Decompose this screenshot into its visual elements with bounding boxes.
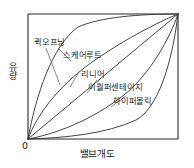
curve-label-hyperbolic: 하이퍼볼릭: [113, 97, 152, 105]
leader-line-quick-opening: [46, 48, 60, 85]
curve-label-linear: 리니어: [81, 70, 104, 78]
origin-tick-label: 0: [22, 140, 28, 151]
curve-label-quick-opening: 퀵오프닝: [34, 38, 65, 46]
curve-label-square-root: 스케어루트: [63, 51, 102, 59]
curve-label-equal-percentage: 이퀄퍼센테이지: [88, 83, 143, 91]
valve-characteristic-chart: 퀵오프닝 스케어루트 리니어 이퀄퍼센테이지 하이퍼볼릭 유량 밸브개도 0: [0, 0, 194, 168]
y-axis-title: 유량: [2, 62, 16, 79]
leader-line-linear: [70, 72, 79, 87]
x-axis-title: 밸브개도: [0, 146, 194, 160]
